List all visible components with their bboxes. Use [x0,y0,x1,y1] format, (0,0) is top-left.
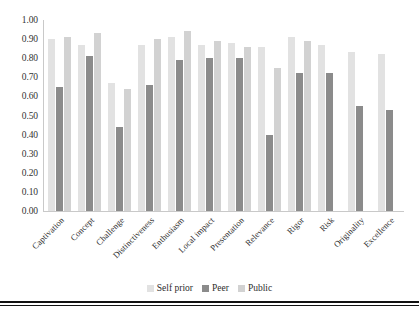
y-axis-tick-label: 0.00 [22,206,38,216]
x-axis-label: Concept [68,215,96,243]
bar-peer [386,110,393,211]
bar-self [78,45,85,211]
y-axis-tick-label: 0.80 [22,53,38,63]
bar-public [214,41,221,211]
bar-self [348,52,355,211]
bar-peer [176,60,183,211]
chart-legend: Self priorPeerPublic [0,283,419,293]
y-axis-tick-label: 0.40 [22,130,38,140]
bar-peer [326,73,333,211]
legend-label: Self prior [157,283,193,293]
y-axis-tick-label: 0.20 [22,168,38,178]
x-axis-line [43,211,404,212]
bar-peer [116,127,123,211]
y-axis-tick-label: 0.60 [22,91,38,101]
bar-public [124,89,131,211]
bar-public [184,31,191,211]
plot-area [44,20,404,211]
x-axis-labels: CaptivationConceptChallengeDistinctivene… [44,213,404,279]
bar-peer [236,58,243,211]
y-axis-tick-label: 0.90 [22,34,38,44]
y-axis-tick-label: 0.70 [22,72,38,82]
bar-peer [356,106,363,211]
bar-public [304,41,311,211]
x-axis-label: Originality [332,215,367,250]
bar-group [194,20,224,211]
bar-self [138,45,145,211]
bar-public [274,68,281,211]
y-axis: 1.000.900.800.700.600.500.400.300.200.10… [0,20,42,211]
bar-group [134,20,164,211]
bar-peer [146,85,153,211]
bar-public [64,37,71,211]
bottom-rule-secondary [0,305,419,306]
bar-chart-figure: 1.000.900.800.700.600.500.400.300.200.10… [0,0,419,315]
bar-public [244,47,251,211]
legend-swatch-self [147,285,154,292]
bar-self [318,45,325,211]
legend-item[interactable]: Self prior [147,283,193,293]
bar-self [48,39,55,211]
bar-peer [206,58,213,211]
x-axis-label: Captivation [30,215,66,251]
y-axis-tick-label: 1.00 [22,15,38,25]
y-axis-tick-label: 0.50 [22,111,38,121]
bar-groups [44,20,404,211]
legend-item[interactable]: Public [238,283,272,293]
bar-self [288,37,295,211]
bar-self [168,37,175,211]
bottom-rule [0,301,419,303]
bar-group [314,20,344,211]
legend-swatch-public [238,285,245,292]
bar-group [44,20,74,211]
x-axis-label: Rigor [285,215,306,236]
bar-self [228,43,235,211]
bar-peer [86,56,93,211]
bar-public [154,39,161,211]
bar-peer [296,73,303,211]
bar-group [284,20,314,211]
bar-self [108,83,115,211]
x-axis-label: Relevance [243,215,276,248]
bar-group [374,20,404,211]
bar-self [258,47,265,211]
bar-group [224,20,254,211]
y-axis-tick-label: 0.10 [22,187,38,197]
legend-item[interactable]: Peer [202,283,229,293]
bar-group [344,20,374,211]
bar-peer [56,87,63,211]
bar-public [94,33,101,211]
x-axis-label: Excellence [362,215,396,249]
bar-group [254,20,284,211]
y-axis-tick-label: 0.30 [22,149,38,159]
legend-swatch-peer [202,285,209,292]
bar-self [198,45,205,211]
bar-group [104,20,134,211]
bar-group [164,20,194,211]
legend-label: Peer [212,283,229,293]
bar-self [378,54,385,211]
legend-label: Public [248,283,272,293]
bar-peer [266,135,273,211]
x-axis-label: Risk [318,215,337,234]
bar-group [74,20,104,211]
